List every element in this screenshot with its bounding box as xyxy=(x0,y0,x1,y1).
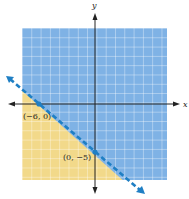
y-axis-up-arrow-icon xyxy=(93,13,98,20)
coordinate-graph: x y (−6, 0) (0, −5) xyxy=(0,0,189,199)
x-axis-left-arrow-icon xyxy=(8,102,15,107)
x-axis-right-arrow-icon xyxy=(173,102,180,107)
point-neg6-0 xyxy=(36,101,41,106)
point-0-neg5 xyxy=(92,149,97,154)
y-axis-down-arrow-icon xyxy=(93,187,98,194)
point-label-0-neg5: (0, −5) xyxy=(63,153,91,162)
boundary-arrow-down-right-icon xyxy=(136,186,145,194)
x-axis-label: x xyxy=(183,100,188,109)
y-axis-label: y xyxy=(91,1,97,10)
point-label-neg6-0: (−6, 0) xyxy=(23,112,51,121)
